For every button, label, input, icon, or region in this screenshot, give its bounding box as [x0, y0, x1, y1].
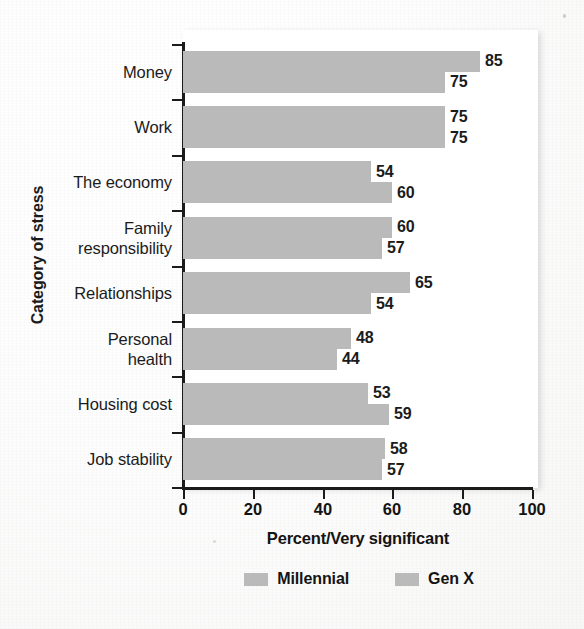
- x-axis-tick-label: 0: [153, 500, 213, 519]
- x-axis-tick: [392, 490, 394, 499]
- chart-legend: MillennialGen X: [183, 570, 535, 588]
- x-axis-tick: [253, 490, 255, 499]
- x-axis-tick-label: 20: [223, 500, 283, 519]
- y-axis-title: Category of stress: [29, 155, 47, 355]
- category-label-work: Work: [12, 117, 172, 137]
- bar-value-label: 75: [450, 129, 467, 147]
- bar-millennial: [183, 383, 368, 404]
- chart-page: 85757575546060576554484453595857 MoneyWo…: [0, 0, 584, 629]
- bar-value-label: 44: [342, 350, 359, 368]
- bar-value-label: 75: [450, 73, 467, 91]
- legend-entry-gen-x: Gen X: [395, 570, 474, 588]
- bar-value-label: 85: [485, 52, 502, 70]
- bar-gen-x: [183, 293, 371, 314]
- y-axis-tick: [172, 321, 183, 323]
- x-axis-tick-label: 80: [432, 500, 492, 519]
- scan-speck: [563, 14, 566, 18]
- category-label-line: Work: [12, 117, 172, 137]
- bar-gen-x: [183, 404, 389, 425]
- x-axis-tick: [462, 490, 464, 499]
- bar-gen-x: [183, 72, 445, 93]
- y-axis-tick: [172, 155, 183, 157]
- x-axis-tick: [183, 490, 185, 499]
- y-axis-tick: [172, 266, 183, 268]
- bar-value-label: 53: [373, 384, 390, 402]
- legend-label: Gen X: [428, 570, 474, 588]
- bar-value-label: 60: [397, 184, 414, 202]
- legend-swatch: [395, 573, 419, 586]
- bar-millennial: [183, 438, 385, 459]
- scan-speck: [213, 540, 216, 543]
- bar-value-label: 60: [397, 218, 414, 236]
- bar-value-label: 75: [450, 108, 467, 126]
- x-axis-tick: [323, 490, 325, 499]
- bar-gen-x: [183, 349, 337, 370]
- bar-value-label: 65: [415, 274, 432, 292]
- bar-value-label: 48: [356, 329, 373, 347]
- y-axis-tick: [172, 487, 183, 489]
- bar-value-label: 59: [394, 405, 411, 423]
- legend-entry-millennial: Millennial: [244, 570, 349, 588]
- x-axis-title: Percent/Very significant: [183, 529, 533, 548]
- bar-value-label: 57: [387, 239, 404, 257]
- y-axis-tick: [172, 210, 183, 212]
- legend-label: Millennial: [277, 570, 349, 588]
- bar-millennial: [183, 161, 371, 182]
- x-axis-tick: [532, 490, 534, 499]
- y-axis-tick: [172, 99, 183, 101]
- x-axis-tick-label: 100: [502, 500, 562, 519]
- y-axis-tick: [172, 44, 183, 46]
- bar-millennial: [183, 51, 480, 72]
- bar-gen-x: [183, 459, 382, 480]
- category-label-housing-cost: Housing cost: [12, 394, 172, 414]
- x-axis-tick-label: 60: [362, 500, 422, 519]
- bar-millennial: [183, 106, 445, 127]
- category-label-job-stability: Job stability: [12, 449, 172, 469]
- legend-swatch: [244, 573, 268, 586]
- y-axis-tick: [172, 376, 183, 378]
- category-label-line: Housing cost: [12, 394, 172, 414]
- y-axis-tick: [172, 432, 183, 434]
- category-label-money: Money: [12, 62, 172, 82]
- category-axis-labels: MoneyWorkThe economyFamilyresponsibility…: [0, 0, 172, 629]
- bar-millennial: [183, 272, 410, 293]
- bar-value-label: 58: [390, 440, 407, 458]
- bar-gen-x: [183, 238, 382, 259]
- category-label-line: Money: [12, 62, 172, 82]
- bar-gen-x: [183, 182, 392, 203]
- bar-millennial: [183, 328, 351, 349]
- bar-value-label: 54: [376, 163, 393, 181]
- bar-value-label: 54: [376, 295, 393, 313]
- bar-gen-x: [183, 127, 445, 148]
- bar-millennial: [183, 217, 392, 238]
- x-axis-tick-label: 40: [293, 500, 353, 519]
- bar-value-label: 57: [387, 461, 404, 479]
- category-label-line: Job stability: [12, 449, 172, 469]
- x-axis-line: [182, 487, 533, 490]
